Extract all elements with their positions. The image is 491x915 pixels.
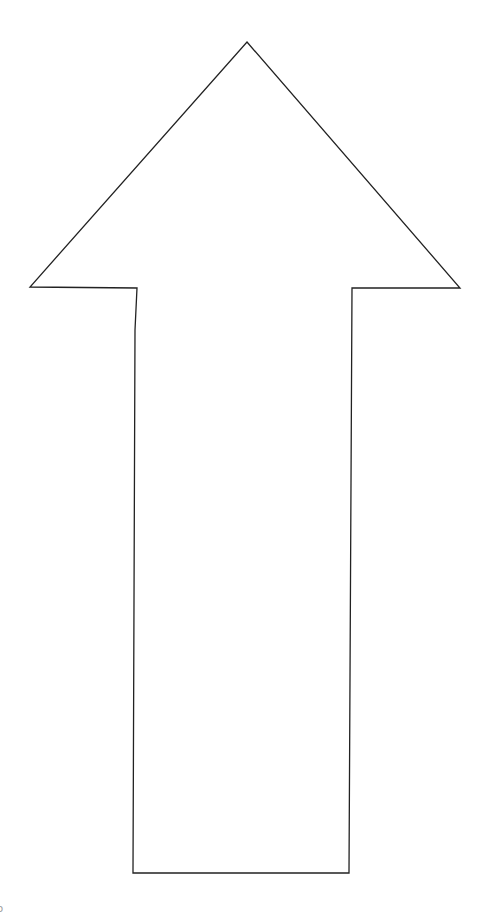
up-arrow-shape xyxy=(30,42,460,873)
corner-mark: o xyxy=(0,904,3,914)
diagram-canvas xyxy=(0,0,491,915)
